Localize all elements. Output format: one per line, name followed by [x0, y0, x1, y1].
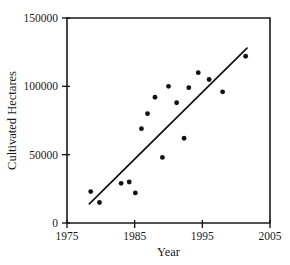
- data-point-1: [97, 200, 102, 205]
- x-tick-label-1: 1985: [123, 230, 146, 242]
- data-point-13: [196, 70, 201, 75]
- data-point-12: [186, 85, 191, 90]
- data-point-0: [88, 189, 93, 194]
- plot-frame: [67, 18, 270, 223]
- x-axis-tick-labels: 1975198519952005: [56, 230, 282, 242]
- y-tick-label-1: 50000: [29, 149, 58, 161]
- data-point-14: [207, 77, 212, 82]
- data-point-2: [119, 181, 124, 186]
- x-tick-label-0: 1975: [56, 230, 79, 242]
- axis-frame: [67, 18, 270, 223]
- x-tick-label-2: 1995: [191, 230, 214, 242]
- data-point-9: [166, 84, 171, 89]
- y-tick-label-3: 150000: [24, 12, 59, 24]
- data-point-4: [133, 191, 138, 196]
- x-tick-label-3: 2005: [259, 230, 282, 242]
- data-point-10: [174, 100, 179, 105]
- data-point-8: [160, 155, 165, 160]
- x-axis-title: Year: [157, 245, 181, 259]
- trend-line: [89, 48, 247, 204]
- data-point-11: [182, 136, 187, 141]
- plot-canvas: 050000100000150000 1975198519952005 Year…: [0, 0, 290, 265]
- data-point-3: [127, 180, 132, 185]
- data-point-7: [153, 95, 158, 100]
- y-axis-title: Cultivated Hectares: [5, 71, 19, 170]
- scatter-chart: 050000100000150000 1975198519952005 Year…: [0, 0, 290, 265]
- y-axis-tick-labels: 050000100000150000: [24, 12, 59, 229]
- y-tick-label-0: 0: [52, 217, 58, 229]
- y-tick-label-2: 100000: [24, 80, 59, 92]
- y-axis-ticks: [62, 18, 70, 223]
- data-point-16: [243, 54, 248, 59]
- x-axis-ticks: [67, 220, 270, 228]
- data-point-5: [139, 126, 144, 131]
- data-point-15: [220, 89, 225, 94]
- data-point-6: [145, 111, 150, 116]
